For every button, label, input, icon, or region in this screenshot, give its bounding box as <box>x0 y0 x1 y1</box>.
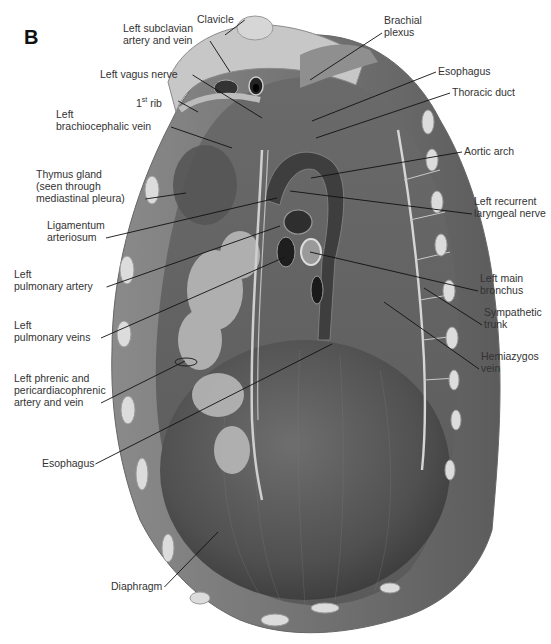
label-thoracic-duct: Thoracic duct <box>452 86 515 98</box>
label-left-main-bronchus: Left main bronchus <box>480 272 523 296</box>
main-bronchus <box>301 239 321 265</box>
label-thymus: Thymus gland (seen through mediastinal p… <box>36 168 125 204</box>
label-first-rib: 1st rib <box>136 94 162 109</box>
label-ligamentum: Ligamentum arteriosum <box>47 219 105 243</box>
label-left-pulm-artery: Left pulmonary artery <box>14 268 93 292</box>
label-left-pulm-veins: Left pulmonary veins <box>14 319 90 343</box>
pulmonary-vein-lower <box>311 276 323 304</box>
label-left-brachiocephalic: Left brachiocephalic vein <box>56 108 151 132</box>
label-esophagus-up: Esophagus <box>438 65 491 77</box>
label-esophagus-low: Esophagus <box>42 457 95 469</box>
label-brachial-plexus: Brachial plexus <box>384 14 422 38</box>
label-left-phrenic: Left phrenic and pericardiacophrenic art… <box>14 372 106 408</box>
label-sympathetic-trunk: Sympathetic trunk <box>484 306 542 330</box>
label-left-vagus: Left vagus nerve <box>100 68 178 80</box>
anatomy-figure: B ClavicleLeft subclavian artery and vei… <box>0 0 551 644</box>
label-left-recurrent: Left recurrent laryngeal nerve <box>474 195 546 219</box>
pulmonary-vein-upper <box>277 237 295 267</box>
clavicle-section <box>237 16 273 40</box>
pulmonary-artery <box>284 210 312 234</box>
thymus-shape <box>173 145 237 225</box>
label-aortic-arch: Aortic arch <box>464 145 514 157</box>
label-left-subclavian: Left subclavian artery and vein <box>123 22 193 46</box>
panel-letter: B <box>24 26 38 49</box>
label-clavicle: Clavicle <box>197 13 234 25</box>
label-diaphragm: Diaphragm <box>111 580 162 592</box>
label-hemiazygos: Hemiazygos vein <box>481 350 539 374</box>
